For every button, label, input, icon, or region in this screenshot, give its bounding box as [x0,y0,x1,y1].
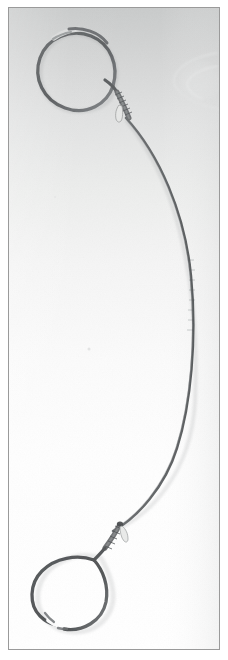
photo-border [8,7,220,650]
photograph-canvas [9,8,219,649]
scan-grain-overlay [9,8,219,649]
figure-root [0,0,228,660]
